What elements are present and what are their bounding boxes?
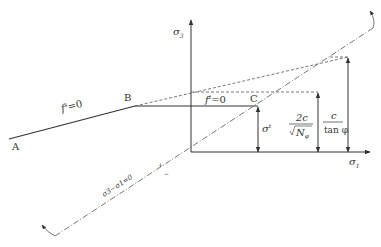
top-numerator: c: [331, 110, 337, 121]
top-denominator: tan φ: [324, 125, 348, 135]
tensile-strength-label: σt: [262, 122, 272, 134]
diagonal-minus: −: [164, 170, 169, 177]
sigma3-label: σ3: [173, 26, 184, 39]
diagonal-plus: +: [158, 161, 163, 168]
mid-numerator: 2c: [295, 112, 308, 123]
shear-extension-dashed: [135, 57, 348, 106]
point-b-label: B: [124, 92, 131, 103]
diagonal-top-arrow: [370, 11, 374, 28]
sigma1-label: σ1: [349, 156, 360, 169]
shear-curve-label: fs=0: [59, 97, 84, 114]
diagonal-bottom-arrow: [42, 225, 55, 236]
point-c-label: C: [250, 93, 258, 104]
yield-diagram: σ3 σ1 A B fs=0 C ft=0 σ3−σ1=0 + − σt 2c …: [0, 0, 381, 247]
point-a-label: A: [11, 141, 20, 152]
diagonal-label: σ3−σ1=0: [101, 173, 135, 199]
tension-curve-label: ft=0: [204, 93, 226, 105]
mid-denominator: Nφ: [295, 127, 310, 140]
